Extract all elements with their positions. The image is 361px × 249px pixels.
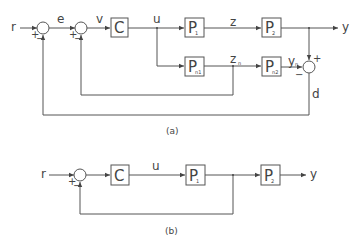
caption-b: (b) — [165, 226, 178, 236]
block-p2-subscript: 2 — [272, 30, 275, 36]
block-controller-label: C — [114, 19, 124, 37]
signal-u-label: u — [153, 12, 161, 26]
signal-r-label-b: r — [41, 167, 46, 181]
signal-z-label: z — [230, 15, 236, 29]
diagram-b: r + − C u P 1 P 2 y (b) — [41, 159, 317, 236]
feedback-b — [80, 175, 233, 214]
diagram-a: r + − e + − v C u P 1 z P 2 y — [11, 12, 349, 136]
sum3-plus-sign: + — [313, 53, 321, 64]
signal-zn-label: z — [230, 52, 236, 66]
block-controller-label-b: C — [114, 167, 124, 185]
signal-r-label: r — [11, 20, 16, 34]
signal-zn-subscript: n — [238, 60, 241, 66]
block-p1-subscript-b: 1 — [196, 178, 199, 184]
caption-a: (a) — [166, 126, 179, 136]
signal-yn-subscript: n — [295, 61, 298, 67]
signal-y-label: y — [342, 20, 349, 34]
block-diagrams: r + − e + − v C u P 1 z P 2 y — [0, 0, 361, 249]
block-pn1-subscript: n1 — [195, 69, 201, 75]
signal-d-label: d — [312, 87, 320, 101]
signal-v-label: v — [96, 12, 103, 26]
block-pn2-subscript: n2 — [272, 69, 278, 75]
block-p1-subscript: 1 — [195, 30, 198, 36]
signal-u-label-b: u — [152, 159, 160, 173]
signal-e-label: e — [57, 12, 64, 26]
block-p2-subscript-b: 2 — [271, 178, 274, 184]
signal-y-label-b: y — [310, 167, 317, 181]
arrow-u-to-pn1 — [157, 28, 184, 66]
sum3-minus-sign: − — [295, 69, 303, 80]
